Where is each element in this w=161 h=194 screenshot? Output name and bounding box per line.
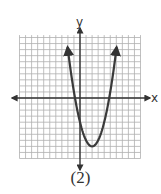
graph-caption: (2) <box>0 168 161 188</box>
parabola-graph: xy <box>0 0 161 194</box>
y-axis-label: y <box>76 15 83 29</box>
x-axis-label: x <box>151 91 158 105</box>
